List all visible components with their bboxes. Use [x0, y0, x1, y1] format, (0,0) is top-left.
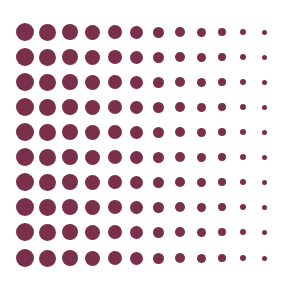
- dot: [218, 78, 226, 86]
- dot: [153, 127, 164, 138]
- dot: [16, 48, 34, 66]
- dot: [197, 254, 206, 263]
- dot: [153, 227, 164, 238]
- dot: [16, 123, 34, 141]
- dot: [153, 177, 164, 188]
- dot: [85, 50, 100, 65]
- dot: [130, 26, 143, 39]
- dot: [218, 178, 226, 186]
- dot: [39, 250, 56, 267]
- halftone-dot-grid: [0, 0, 287, 284]
- dot: [175, 102, 185, 112]
- dot: [16, 73, 34, 91]
- dot: [262, 80, 267, 85]
- dot: [218, 28, 226, 36]
- dot: [240, 129, 246, 135]
- dot: [108, 225, 122, 239]
- dot: [262, 55, 267, 60]
- dot: [218, 128, 226, 136]
- dot: [175, 52, 185, 62]
- dot: [39, 174, 56, 191]
- dot: [16, 98, 34, 116]
- dot: [62, 99, 78, 115]
- dot: [197, 178, 206, 187]
- dot: [175, 177, 185, 187]
- dot: [153, 152, 164, 163]
- dot: [62, 224, 78, 240]
- dot: [85, 100, 100, 115]
- dot: [39, 224, 56, 241]
- dot: [175, 27, 185, 37]
- dot: [130, 101, 143, 114]
- dot: [262, 230, 267, 235]
- dot: [240, 179, 246, 185]
- dot: [39, 74, 56, 91]
- dot: [39, 24, 56, 41]
- dot: [153, 77, 164, 88]
- dot: [130, 126, 143, 139]
- dot: [62, 49, 78, 65]
- dot: [39, 49, 56, 66]
- dot: [85, 75, 100, 90]
- dot: [218, 228, 226, 236]
- dot: [108, 200, 122, 214]
- dot: [130, 226, 143, 239]
- dot: [62, 124, 78, 140]
- dot: [108, 125, 122, 139]
- dot: [16, 249, 34, 267]
- dot: [130, 252, 143, 265]
- dot: [262, 30, 267, 35]
- dot: [240, 204, 246, 210]
- dot: [153, 102, 164, 113]
- dot: [62, 250, 78, 266]
- dot: [175, 152, 185, 162]
- dot: [218, 53, 226, 61]
- dot: [85, 25, 100, 40]
- dot: [62, 199, 78, 215]
- dot: [153, 52, 164, 63]
- dot: [130, 176, 143, 189]
- dot: [197, 128, 206, 137]
- dot: [240, 79, 246, 85]
- dot: [39, 124, 56, 141]
- dot: [62, 24, 78, 40]
- dot: [153, 202, 164, 213]
- dot: [197, 228, 206, 237]
- dot: [218, 254, 226, 262]
- dot: [240, 54, 246, 60]
- dot: [197, 203, 206, 212]
- dot: [262, 130, 267, 135]
- dot: [130, 201, 143, 214]
- dot: [262, 256, 267, 261]
- dot: [108, 251, 122, 265]
- dot: [85, 225, 100, 240]
- dot: [108, 75, 122, 89]
- dot: [262, 180, 267, 185]
- dot: [175, 253, 185, 263]
- dot: [85, 150, 100, 165]
- dot: [175, 77, 185, 87]
- dot: [16, 23, 34, 41]
- dot: [175, 127, 185, 137]
- dot: [153, 27, 164, 38]
- dot: [108, 50, 122, 64]
- dot: [240, 154, 246, 160]
- dot: [197, 28, 206, 37]
- dot: [218, 153, 226, 161]
- dot: [62, 149, 78, 165]
- dot: [262, 155, 267, 160]
- dot: [85, 251, 100, 266]
- dot: [85, 175, 100, 190]
- dot: [62, 74, 78, 90]
- dot: [218, 203, 226, 211]
- dot: [153, 253, 164, 264]
- dot: [39, 149, 56, 166]
- dot: [16, 148, 34, 166]
- dot: [240, 229, 246, 235]
- dot: [108, 100, 122, 114]
- dot: [85, 125, 100, 140]
- dot: [85, 200, 100, 215]
- dot: [197, 78, 206, 87]
- dot: [262, 205, 267, 210]
- dot: [108, 150, 122, 164]
